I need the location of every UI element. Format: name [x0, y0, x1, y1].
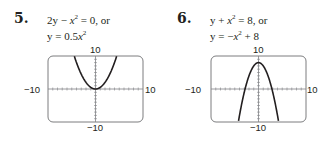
graph-6: [211, 56, 306, 122]
plots-canvas: [0, 0, 325, 142]
graph-5: [48, 56, 143, 122]
